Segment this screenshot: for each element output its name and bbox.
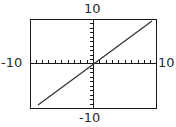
y-axis-min-label: -10 xyxy=(79,111,100,124)
x-axis-min-label: -10 xyxy=(1,56,22,69)
plot-figure: 10 -10 -10 10 xyxy=(0,0,176,127)
x-axis-max-label: 10 xyxy=(158,56,175,69)
plot-canvas xyxy=(0,0,176,127)
y-axis-max-label: 10 xyxy=(84,2,101,15)
